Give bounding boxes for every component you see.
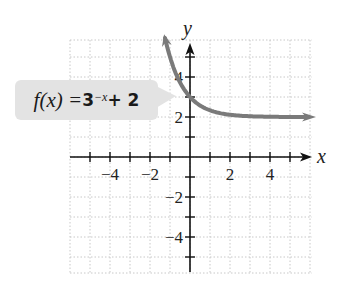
x-tick-label: −4 xyxy=(101,165,120,184)
label-pointer xyxy=(156,86,176,108)
graph: −4−22442−2−4 x y xyxy=(0,0,344,283)
x-axis-label: x xyxy=(316,145,326,167)
function-label-prefix: f(x) = xyxy=(34,88,83,113)
y-tick-label: −4 xyxy=(165,228,184,247)
function-label-base: 3 xyxy=(82,90,94,110)
function-label: f(x) = 3 −x + 2 xyxy=(15,80,158,120)
function-label-exponent: −x xyxy=(94,90,107,105)
y-axis-label: y xyxy=(181,17,192,40)
function-label-suffix: + 2 xyxy=(107,90,139,110)
y-tick-label: −2 xyxy=(165,188,183,207)
x-tick-label: −2 xyxy=(141,165,159,184)
x-tick-label: 2 xyxy=(226,165,235,184)
x-tick-label: 4 xyxy=(266,165,275,184)
y-tick-label: 2 xyxy=(175,108,184,127)
